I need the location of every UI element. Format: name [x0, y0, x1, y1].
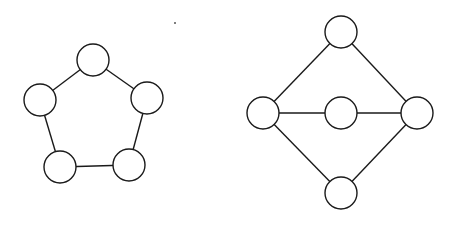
node-e [24, 84, 56, 116]
node-bottom [325, 177, 357, 209]
cycle-graph [24, 44, 163, 183]
diamond-graph [247, 16, 433, 209]
node-left [247, 97, 279, 129]
node-a [77, 44, 109, 76]
edge-top-left [263, 32, 341, 113]
dot-mark [174, 22, 176, 24]
node-c [113, 149, 145, 181]
node-d [44, 151, 76, 183]
node-right [401, 97, 433, 129]
node-mid [325, 97, 357, 129]
node-top [325, 16, 357, 48]
node-b [131, 82, 163, 114]
edge-left-bottom [263, 113, 341, 193]
stray-mark [174, 22, 176, 24]
graph-diagram-canvas [0, 0, 458, 226]
